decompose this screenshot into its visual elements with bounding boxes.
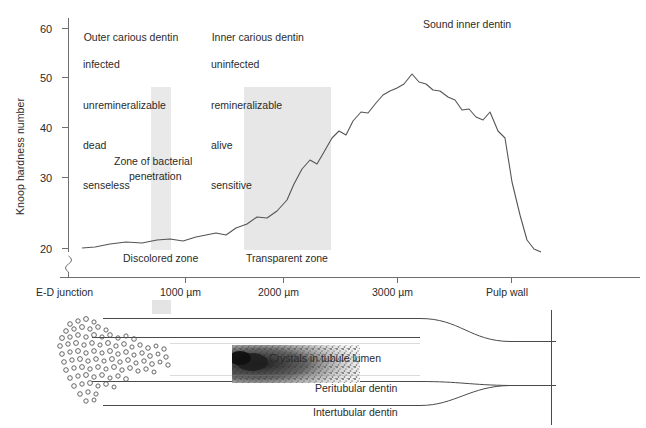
- inner-item-4: sensitive: [200, 179, 304, 192]
- inner-title: Inner carious dentin: [212, 31, 304, 43]
- peritubular-bottom-taper: [420, 382, 510, 386]
- label-discolored-zone: Discolored zone: [123, 252, 198, 265]
- y-tick-label-30: 30: [40, 171, 52, 185]
- y-axis-break-icon: [66, 256, 72, 272]
- outer-item-2: unremineralizable: [72, 99, 178, 112]
- label-peritubular-dentin: Peritubular dentin: [315, 382, 397, 395]
- figure-root: Knoop hardness number 60 50 40 30 20 E-D…: [0, 0, 646, 428]
- inner-item-1: uninfected: [200, 58, 304, 71]
- y-tick-label-60: 60: [40, 22, 52, 36]
- y-tick-label-40: 40: [40, 121, 52, 135]
- outer-item-1: infected: [72, 58, 178, 71]
- inner-item-2: remineralizable: [200, 99, 304, 112]
- annotation-sound-inner-dentin: Sound inner dentin: [423, 18, 511, 31]
- intertubular-top-taper: [420, 319, 510, 342]
- label-intertubular-dentin: Intertubular dentin: [313, 406, 398, 419]
- y-axis-title: Knoop hardness number: [14, 98, 26, 215]
- label-transparent-zone: Transparent zone: [246, 252, 328, 265]
- annotation-inner-carious-dentin: Inner carious dentin uninfected reminera…: [200, 18, 304, 220]
- annotation-outer-carious-dentin: Outer carious dentin infected unreminera…: [72, 18, 178, 220]
- outer-title: Outer carious dentin: [84, 31, 179, 43]
- x-tick-label-1000: 1000 µm: [160, 286, 201, 299]
- x-tick-label-3000: 3000 µm: [372, 286, 413, 299]
- inner-item-3: alive: [200, 139, 304, 152]
- label-zone-bacterial-penetration-line1: Zone of bacterial: [114, 155, 192, 168]
- bacteria-circles-icon: [58, 317, 171, 404]
- label-crystals-in-tubule-lumen: Crystals in tubule lumen: [269, 352, 381, 365]
- x-tick-label-pulp-wall: Pulp wall: [486, 286, 528, 299]
- label-zone-bacterial-penetration-line2: penetration: [129, 170, 182, 183]
- y-tick-label-20: 20: [40, 242, 52, 256]
- x-tick-label-ed-junction: E-D junction: [36, 286, 93, 299]
- y-tick-label-50: 50: [40, 71, 52, 85]
- intertubular-bottom-taper: [420, 386, 510, 406]
- x-tick-label-2000: 2000 µm: [258, 286, 299, 299]
- outer-item-3: dead: [72, 139, 178, 152]
- scale-marker: [152, 300, 171, 314]
